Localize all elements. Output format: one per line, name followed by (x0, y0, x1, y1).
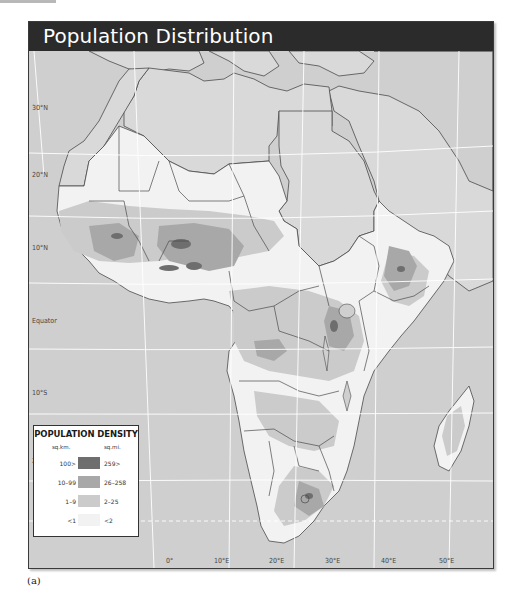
legend-swatch-highest (78, 457, 100, 469)
legend-item-low: <1 <2 (34, 514, 138, 527)
lon-label-0: 0° (166, 557, 173, 565)
lake-victoria (339, 304, 355, 318)
legend-km-value: 100> (38, 457, 76, 470)
legend-km-value: <1 (38, 514, 76, 527)
lat-label-20n: 20°N (32, 171, 48, 179)
map-title: Population Distribution (43, 23, 273, 50)
lat-label-10s: 10°S (32, 389, 47, 397)
legend-swatch-low (78, 514, 100, 526)
lon-label-20e: 20°E (269, 557, 284, 565)
figure-caption: (a) (27, 575, 41, 586)
population-density-legend: POPULATION DENSITY sq.km. sq.mi. 100> 25… (33, 425, 139, 537)
lon-label-10e: 10°E (214, 557, 229, 565)
lat-label-30n: 30°N (32, 104, 48, 112)
legend-swatch-medium (78, 495, 100, 507)
legend-mi-value: <2 (104, 514, 113, 527)
legend-unit-mi: sq.mi. (104, 444, 121, 450)
legend-km-value: 10–99 (38, 476, 76, 489)
top-strip (0, 0, 56, 3)
legend-km-value: 1–9 (38, 495, 76, 508)
legend-item-highest: 100> 259> (34, 457, 138, 470)
legend-item-medium: 1–9 2–25 (34, 495, 138, 508)
legend-swatch-high (78, 476, 100, 488)
title-bar: Population Distribution (29, 22, 493, 51)
map-figure: Population Distribution (28, 21, 494, 569)
lon-label-30e: 30°E (325, 557, 340, 565)
lat-label-10n: 10°N (32, 244, 48, 252)
legend-title: POPULATION DENSITY (34, 429, 138, 439)
lon-label-50e: 50°E (439, 557, 454, 565)
lat-label-equator: Equator (32, 317, 57, 325)
legend-unit-km: sq.km. (52, 444, 70, 450)
lon-label-40e: 40°E (381, 557, 396, 565)
legend-mi-value: 26–258 (104, 476, 126, 489)
legend-mi-value: 2–25 (104, 495, 118, 508)
legend-mi-value: 259> (104, 457, 120, 470)
legend-item-high: 10–99 26–258 (34, 476, 138, 489)
